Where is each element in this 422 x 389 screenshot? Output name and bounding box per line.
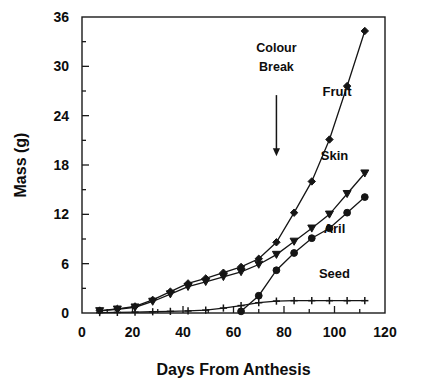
y-tick-label: 36: [53, 9, 69, 25]
series-label-fruit: Fruit: [323, 84, 353, 99]
y-axis-title: Mass (g): [12, 133, 29, 198]
marker-fruit: [308, 178, 315, 185]
marker-skin: [166, 291, 174, 298]
x-tick-label: 20: [125, 324, 141, 340]
marker-fruit: [290, 209, 297, 216]
y-tick-label: 18: [53, 157, 69, 173]
annotation-text: Colour: [256, 41, 296, 55]
series-line-seed: [100, 301, 365, 313]
chart-canvas: 061218243036020406080100120Days From Ant…: [0, 0, 422, 389]
x-tick-label: 40: [175, 324, 191, 340]
marker-skin: [184, 283, 192, 290]
series-label-aril: Aril: [324, 221, 346, 236]
marker-aril: [255, 292, 262, 299]
y-tick-label: 6: [61, 256, 69, 272]
marker-skin: [272, 251, 280, 258]
annotation-text: Break: [259, 60, 294, 74]
y-tick-label: 12: [53, 206, 69, 222]
series-label-skin: Skin: [321, 148, 349, 163]
marker-aril: [344, 209, 351, 216]
series-line-skin: [100, 173, 365, 311]
y-tick-label: 0: [61, 305, 69, 321]
y-tick-label: 24: [53, 108, 69, 124]
marker-fruit: [326, 136, 333, 143]
marker-aril: [273, 267, 280, 274]
y-tick-label: 30: [53, 58, 69, 74]
marker-skin: [255, 261, 263, 268]
marker-aril: [308, 235, 315, 242]
annotation-arrow-head: [273, 148, 280, 156]
x-tick-label: 0: [78, 324, 86, 340]
x-tick-label: 60: [226, 324, 242, 340]
series-label-seed: Seed: [319, 266, 350, 281]
x-tick-label: 120: [373, 324, 397, 340]
marker-aril: [361, 194, 368, 201]
x-axis-title: Days From Anthesis: [156, 361, 310, 378]
marker-fruit: [361, 27, 368, 34]
marker-aril: [291, 250, 298, 257]
chart-figure: 061218243036020406080100120Days From Ant…: [0, 0, 422, 389]
x-tick-label: 100: [323, 324, 347, 340]
x-tick-label: 80: [276, 324, 292, 340]
